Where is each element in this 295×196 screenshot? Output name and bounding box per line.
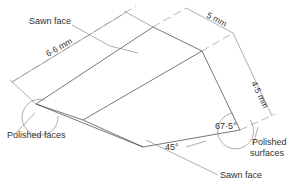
label-polished-faces: Polished faces	[7, 130, 66, 140]
label-polished-surfaces-2: surfaces	[250, 148, 285, 158]
dimension-width-label: 5 mm	[205, 10, 228, 29]
leader-sawn-face-bottom	[146, 140, 218, 175]
prism-diagram: Sawn face 6·6 mm 5 mm 4·5 mm Polished fa…	[0, 0, 295, 196]
dimension-width	[153, 8, 233, 51]
label-angle-45: 45°	[165, 142, 179, 152]
leader-sawn-face-top	[72, 25, 110, 46]
label-sawn-face-top: Sawn face	[29, 16, 71, 26]
label-sawn-face-bottom: Sawn face	[220, 170, 262, 180]
dimension-height-label: 4·5 mm	[249, 79, 271, 109]
label-angle-67-5: 67·5°	[215, 121, 237, 131]
label-polished-surfaces-1: Polished	[252, 137, 287, 147]
